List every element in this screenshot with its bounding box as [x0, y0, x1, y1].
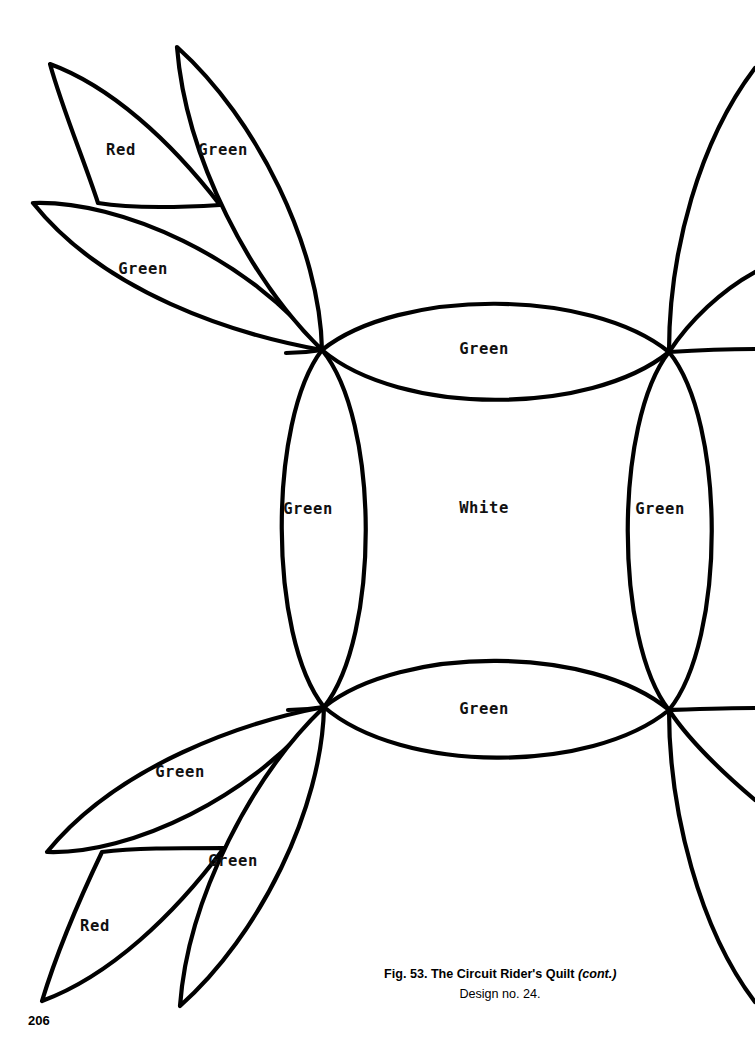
figure-caption-cont-text: (cont.)	[578, 967, 616, 981]
bottom-left-node-stub	[288, 707, 324, 710]
figure-caption-title: Fig. 53. The Circuit Rider's Quilt (cont…	[384, 966, 724, 983]
figure-caption: Fig. 53. The Circuit Rider's Quilt (cont…	[384, 966, 724, 1003]
label-center-left-green: Green	[283, 500, 333, 518]
figure-caption-figure-text: Fig. 53. The Circuit Rider's Quilt	[384, 967, 578, 981]
label-center-white: White	[459, 499, 509, 517]
label-top-left-upper-green: Green	[198, 141, 248, 159]
center-left-lens-shape	[282, 350, 366, 707]
top-right-edge-stub-right	[669, 349, 755, 352]
bottom-right-edge-arc-outer	[669, 710, 755, 1002]
quilt-pattern-diagram: Red Green Green Green Green White Green …	[0, 0, 755, 1049]
center-right-lens-shape	[628, 352, 712, 710]
figure-caption-design-number: Design no. 24.	[384, 986, 616, 1003]
top-right-edge-arc-inner	[669, 272, 755, 352]
label-top-left-lower-green: Green	[118, 260, 168, 278]
label-bottom-left-lower-green: Green	[208, 852, 258, 870]
top-right-edge-arc-outer	[669, 68, 755, 352]
label-center-bottom-green: Green	[459, 700, 509, 718]
top-left-node-stub	[286, 350, 322, 353]
label-top-left-red: Red	[106, 141, 136, 159]
label-center-right-green: Green	[635, 500, 685, 518]
bottom-right-edge-arc-inner	[669, 710, 755, 800]
document-page: Red Green Green Green Green White Green …	[0, 0, 755, 1049]
label-bottom-left-upper-green: Green	[155, 763, 205, 781]
label-bottom-left-red: Red	[80, 917, 110, 935]
page-number: 206	[28, 1013, 50, 1028]
label-center-top-green: Green	[459, 340, 509, 358]
bottom-right-edge-stub-right	[669, 708, 755, 710]
